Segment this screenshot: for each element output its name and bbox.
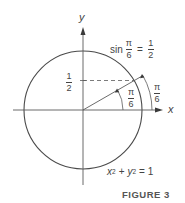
- inner-angle-arc: [118, 90, 123, 110]
- inner-angle-label: π 6: [128, 88, 134, 109]
- exponent: 2: [112, 168, 116, 175]
- fraction-numerator: π: [126, 39, 132, 48]
- figure-caption: FIGURE 3: [122, 189, 170, 200]
- exponent: 2: [132, 168, 136, 175]
- sin-function-text: sin: [110, 44, 123, 55]
- y-axis-label: y: [79, 12, 85, 23]
- fraction-denominator: 6: [129, 100, 134, 109]
- equals-one: = 1: [139, 166, 153, 177]
- fraction-denominator: 2: [66, 84, 71, 93]
- x-axis-label: x: [168, 104, 174, 115]
- sin-value-fraction: 1 2: [148, 39, 154, 60]
- equals-sign: =: [137, 44, 143, 55]
- fraction-denominator: 6: [126, 51, 131, 60]
- plus-sign: +: [119, 166, 125, 177]
- fraction-numerator: π: [128, 88, 134, 97]
- outer-angle-label: π 6: [154, 83, 160, 104]
- fraction-numerator: 1: [66, 72, 71, 81]
- y-axis-arrow-icon: [81, 27, 86, 35]
- y-tick-label-half: 1 2: [66, 72, 72, 93]
- fraction-denominator: 6: [155, 95, 160, 104]
- x-axis-arrow-icon: [155, 108, 163, 113]
- fraction-denominator: 2: [148, 51, 153, 60]
- circle-equation: x2 + y2 = 1: [107, 166, 153, 177]
- outer-angle-arc: [143, 76, 152, 111]
- fraction-numerator: π: [154, 83, 160, 92]
- sin-argument-fraction: π 6: [126, 39, 132, 60]
- sin-equation: sin π 6 = 1 2: [110, 39, 155, 60]
- fraction-numerator: 1: [148, 39, 153, 48]
